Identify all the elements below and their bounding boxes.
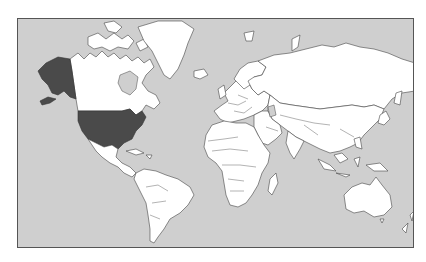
world-map (18, 19, 414, 248)
region-arctic-islands (88, 33, 134, 51)
map-frame (17, 18, 414, 248)
region-svalbard (244, 31, 254, 41)
